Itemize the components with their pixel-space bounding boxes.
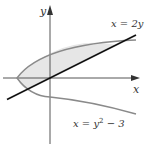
line-label: x = 2y [111, 18, 144, 29]
line-x-eq-2y [7, 35, 136, 100]
y-axis-arrow-icon [47, 5, 53, 15]
region-diagram: y x x = 2y x = y2 − 3 [0, 0, 145, 146]
x-axis-arrow-icon [131, 75, 140, 81]
y-axis-label: y [39, 5, 47, 18]
parabola-label: x = y2 − 3 [73, 117, 125, 129]
x-axis-label: x [133, 83, 140, 96]
